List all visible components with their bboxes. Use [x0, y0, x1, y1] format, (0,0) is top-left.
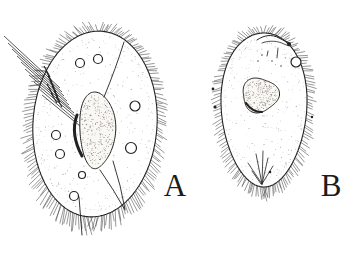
- stipple-dot: [99, 99, 100, 100]
- stipple-dot: [94, 160, 95, 161]
- stipple-dot: [291, 55, 292, 56]
- stipple-dot: [120, 58, 121, 59]
- stipple-dot: [89, 39, 90, 40]
- stipple-dot: [44, 137, 45, 138]
- stipple-dot: [103, 149, 104, 150]
- stipple-dot: [110, 196, 111, 197]
- food-vacuole: [130, 101, 140, 111]
- stipple-dot: [265, 82, 266, 83]
- cilium: [307, 95, 313, 98]
- stipple-dot: [107, 198, 108, 199]
- cilium: [292, 164, 298, 173]
- stipple-dot: [247, 98, 248, 99]
- stipple-dot: [266, 123, 267, 124]
- stipple-dot: [257, 103, 258, 104]
- stipple-dot: [121, 46, 122, 47]
- cilium: [213, 108, 221, 111]
- stipple-dot: [93, 155, 94, 156]
- stipple-dot: [105, 198, 106, 199]
- stipple-dot: [265, 84, 266, 85]
- stipple-dot: [98, 141, 99, 142]
- cilium: [228, 46, 236, 48]
- stipple-dot: [83, 107, 84, 108]
- stipple-dot: [84, 121, 85, 122]
- stipple-dot: [50, 178, 51, 179]
- cilium: [214, 128, 224, 135]
- cilium: [36, 188, 47, 201]
- stipple-dot: [107, 93, 108, 94]
- stipple-dot: [88, 134, 89, 135]
- stipple-dot: [278, 109, 279, 110]
- stipple-dot: [119, 198, 120, 199]
- stipple-dot: [266, 86, 267, 87]
- cilium: [143, 178, 155, 189]
- cilium: [127, 38, 134, 42]
- cilium: [155, 97, 166, 100]
- stipple-dot: [104, 153, 105, 154]
- food-vacuole: [70, 192, 79, 201]
- stipple-dot: [90, 115, 91, 116]
- stipple-dot: [250, 104, 251, 105]
- stipple-dot: [257, 90, 258, 91]
- cilium: [298, 151, 304, 158]
- stipple-dot: [266, 91, 267, 92]
- stipple-dot: [254, 84, 255, 85]
- stipple-dot: [77, 46, 78, 47]
- stipple-dot: [269, 104, 270, 105]
- stipple-dot: [239, 153, 240, 154]
- stipple-dot: [103, 119, 104, 120]
- stipple-dot: [128, 115, 129, 116]
- stipple-dot: [263, 144, 264, 145]
- stipple-dot: [262, 92, 263, 93]
- stipple-dot: [258, 86, 259, 87]
- stipple-dot: [253, 95, 254, 96]
- stipple-dot: [226, 118, 227, 119]
- stipple-dot: [257, 108, 258, 109]
- cilium: [79, 28, 84, 34]
- stipple-dot: [108, 111, 109, 112]
- stipple-dot: [82, 111, 83, 112]
- cilium: [283, 35, 290, 40]
- stipple-dot: [94, 105, 95, 106]
- stipple-dot: [57, 68, 58, 69]
- stipple-dot: [105, 157, 106, 158]
- stipple-dot: [102, 157, 103, 158]
- stipple-dot: [281, 157, 282, 158]
- stipple-dot: [104, 125, 105, 126]
- stipple-dot: [289, 154, 290, 155]
- stipple-dot: [97, 107, 98, 108]
- stipple-dot: [278, 177, 279, 178]
- stipple-dot: [258, 94, 259, 95]
- stipple-dot: [44, 99, 45, 100]
- stipple-dot: [256, 108, 257, 109]
- stipple-dot: [88, 42, 89, 43]
- stipple-dot: [149, 97, 150, 98]
- stipple-dot: [231, 59, 232, 60]
- cilium: [138, 51, 146, 54]
- stipple-dot: [233, 146, 234, 147]
- stipple-dot: [268, 60, 269, 61]
- stipple-dot: [85, 109, 86, 110]
- stipple-dot: [61, 124, 62, 125]
- stipple-dot: [89, 157, 90, 158]
- stipple-dot: [261, 99, 262, 100]
- stipple-dot: [73, 85, 74, 86]
- stipple-dot: [83, 142, 84, 143]
- stipple-dot: [99, 159, 100, 160]
- stipple-dot: [82, 124, 83, 125]
- stipple-dot: [108, 123, 109, 124]
- stipple-dot: [68, 90, 69, 91]
- stipple-dot: [86, 208, 87, 209]
- stipple-dot: [98, 202, 99, 203]
- stipple-dot: [85, 44, 86, 45]
- cilium: [294, 50, 300, 51]
- stipple-dot: [295, 68, 296, 69]
- stipple-dot: [139, 65, 140, 66]
- stipple-dot: [82, 114, 83, 115]
- stipple-dot: [236, 97, 237, 98]
- stipple-dot: [42, 160, 43, 161]
- stipple-dot: [248, 98, 249, 99]
- stipple-dot: [117, 85, 118, 86]
- cilium: [242, 31, 249, 37]
- stipple-dot: [269, 42, 270, 43]
